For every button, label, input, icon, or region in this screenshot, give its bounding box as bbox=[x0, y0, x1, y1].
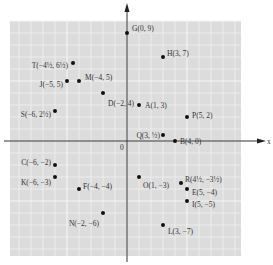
x-axis-arrow-icon bbox=[257, 139, 266, 144]
point-dot-icon bbox=[53, 109, 57, 113]
point-dot-icon bbox=[185, 187, 189, 191]
point-dot-icon bbox=[161, 133, 165, 137]
point-label: I(5, −5) bbox=[192, 200, 215, 209]
point-dot-icon bbox=[101, 211, 105, 215]
point-label: R(4½, −3½) bbox=[185, 175, 222, 184]
point-label: G(0, 9) bbox=[132, 24, 154, 33]
point-dot-icon bbox=[101, 91, 105, 95]
point-dot-icon bbox=[71, 61, 75, 65]
point-label: Q(3, ½) bbox=[136, 131, 160, 140]
point-dot-icon bbox=[77, 187, 81, 191]
point-label: L(3, −7) bbox=[168, 227, 194, 236]
point-label: K(−6, −3) bbox=[21, 178, 52, 187]
x-axis-label: x bbox=[267, 137, 271, 146]
point-dot-icon bbox=[137, 103, 141, 107]
point-label: D(−2, 4) bbox=[108, 99, 134, 108]
point-label: N(−2, −6) bbox=[69, 219, 100, 228]
coordinate-plane: x 0 G(0, 9)H(3, 7)T(−4½, 6½)M(−4, 5)J(−5… bbox=[0, 0, 273, 265]
point-dot-icon bbox=[125, 31, 129, 35]
point-dot-icon bbox=[185, 115, 189, 119]
point-dot-icon bbox=[179, 181, 183, 185]
point-label: O(1, −3) bbox=[143, 181, 169, 190]
point-label: B(4, 0) bbox=[180, 137, 202, 146]
point-dot-icon bbox=[137, 175, 141, 179]
point-dot-icon bbox=[161, 223, 165, 227]
grid-background bbox=[10, 21, 241, 256]
point-label: C(−6, −2) bbox=[21, 158, 51, 167]
point-r: R(4½, −3½) bbox=[179, 175, 222, 186]
point-label: P(5, 2) bbox=[192, 111, 213, 120]
point-dot-icon bbox=[185, 199, 189, 203]
point-label: J(−5, 5) bbox=[40, 80, 64, 89]
point-dot-icon bbox=[173, 139, 177, 143]
point-label: H(3, 7) bbox=[167, 49, 189, 58]
point-label: E(5, −4) bbox=[192, 188, 218, 197]
point-dot-icon bbox=[53, 163, 57, 167]
point-dot-icon bbox=[53, 175, 57, 179]
point-label: S(−6, 2½) bbox=[21, 110, 52, 119]
y-axis-arrow-icon bbox=[125, 3, 130, 12]
point-f: F(−4, −4) bbox=[77, 182, 112, 192]
point-dot-icon bbox=[65, 79, 69, 83]
origin-label: 0 bbox=[120, 143, 124, 152]
point-label: T(−4½, 6½) bbox=[32, 61, 69, 70]
point-label: M(−4, 5) bbox=[85, 73, 113, 82]
point-dot-icon bbox=[77, 79, 81, 83]
point-dot-icon bbox=[161, 55, 165, 59]
point-label: A(1, 3) bbox=[145, 101, 167, 110]
point-label: F(−4, −4) bbox=[83, 182, 112, 191]
